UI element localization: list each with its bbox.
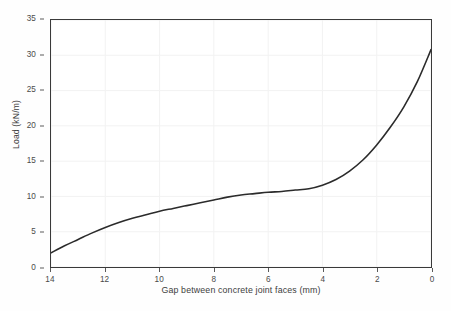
y-tick-mark: [40, 268, 44, 269]
y-tick-mark: [40, 125, 44, 126]
chart-figure: 05101520253035 Load (kN/m) 14121086420 G…: [0, 0, 451, 311]
plot-area: [50, 19, 432, 268]
x-tick-label: 10: [154, 276, 163, 284]
y-axis-ticks: 05101520253035: [0, 19, 44, 268]
y-tick-label: 10: [27, 193, 36, 201]
y-tick-label: 25: [27, 86, 36, 94]
x-axis-title: Gap between concrete joint faces (mm): [50, 285, 432, 295]
x-tick-mark: [268, 268, 269, 272]
x-tick-label: 14: [45, 276, 54, 284]
x-tick-mark: [214, 268, 215, 272]
x-tick-label: 2: [375, 276, 380, 284]
x-tick-label: 0: [430, 276, 435, 284]
y-tick-mark: [40, 161, 44, 162]
x-tick-label: 8: [211, 276, 216, 284]
y-tick-mark: [40, 54, 44, 55]
y-tick-mark: [40, 232, 44, 233]
y-tick-label: 0: [31, 264, 36, 272]
x-tick-mark: [159, 268, 160, 272]
y-axis-title: Load (kN/m): [11, 100, 21, 149]
y-tick-label: 5: [31, 228, 36, 236]
x-tick-mark: [323, 268, 324, 272]
x-tick-label: 12: [100, 276, 109, 284]
x-tick-mark: [105, 268, 106, 272]
x-tick-label: 4: [321, 276, 326, 284]
y-tick-label: 15: [27, 157, 36, 165]
load-curve: [51, 20, 431, 267]
y-tick-mark: [40, 19, 44, 20]
y-tick-mark: [40, 90, 44, 91]
y-tick-label: 30: [27, 50, 36, 58]
x-tick-mark: [377, 268, 378, 272]
y-tick-mark: [40, 196, 44, 197]
x-tick-mark: [50, 268, 51, 272]
y-tick-label: 35: [27, 15, 36, 23]
x-tick-label: 6: [266, 276, 271, 284]
x-tick-mark: [432, 268, 433, 272]
y-tick-label: 20: [27, 122, 36, 130]
